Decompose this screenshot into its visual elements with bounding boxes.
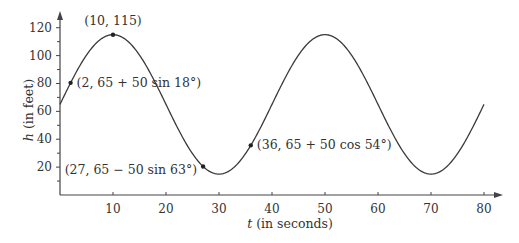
y-tick-label: 100 (29, 49, 52, 63)
annotation-labels: (10, 115)(2, 65 + 50 sin 18°)(27, 65 − 5… (65, 13, 392, 178)
x-axis-label: t (in seconds) (247, 216, 333, 231)
y-tick-label: 20 (37, 160, 52, 174)
annotation-point (201, 164, 205, 168)
annotation-label: (2, 65 + 50 sin 18°) (77, 75, 201, 90)
x-tick-label: 10 (105, 202, 120, 216)
y-axis-arrow-icon (57, 11, 63, 20)
x-tick-label: 40 (264, 202, 279, 216)
x-tick-label: 80 (476, 202, 491, 216)
annotation-label: (27, 65 − 50 sin 63°) (65, 162, 197, 177)
annotation-point (111, 32, 115, 36)
annotation-label: (10, 115) (84, 13, 141, 28)
x-axis: 1020304050607080 (60, 192, 503, 216)
annotation-point (249, 143, 253, 147)
annotation-label: (36, 65 + 50 cos 54°) (257, 137, 392, 152)
annotation-point (68, 81, 72, 85)
x-tick-label: 20 (158, 202, 173, 216)
y-tick-label: 40 (37, 132, 52, 146)
annotation-points (68, 32, 253, 168)
sinusoidal-height-chart: 20406080100120 1020304050607080 (10, 115… (0, 0, 519, 243)
y-tick-label: 80 (37, 76, 52, 90)
x-tick-label: 60 (370, 202, 385, 216)
x-tick-label: 70 (423, 202, 438, 216)
y-tick-label: 120 (29, 21, 52, 35)
y-axis-label: h (in feet) (21, 79, 36, 141)
y-tick-label: 60 (37, 104, 52, 118)
x-tick-label: 30 (211, 202, 226, 216)
height-curve (60, 35, 484, 174)
x-tick-label: 50 (317, 202, 332, 216)
x-axis-arrow-icon (494, 192, 503, 198)
